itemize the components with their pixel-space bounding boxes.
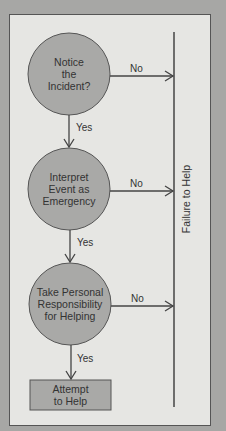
node-attempt-label: Attempt to Help [30, 381, 111, 409]
node-responsibility-label: Take Personal Responsibility for Helping [28, 280, 112, 328]
edge-label-no-2: No [130, 178, 143, 189]
edge-label-yes-3: Yes [77, 353, 93, 364]
arrow-yes-3 [66, 345, 76, 379]
node-notice-label: Notice the Incident? [32, 50, 106, 98]
node-interpret-label: Interpret Event as Emergency [32, 165, 106, 213]
arrow-yes-2 [65, 230, 75, 262]
edge-label-yes-1: Yes [76, 122, 92, 133]
failure-to-help-label: Failure to Help [180, 164, 194, 234]
edge-label-yes-2: Yes [77, 237, 93, 248]
edge-label-no-1: No [130, 63, 143, 74]
edge-label-no-3: No [131, 293, 144, 304]
arrow-yes-1 [64, 115, 74, 147]
